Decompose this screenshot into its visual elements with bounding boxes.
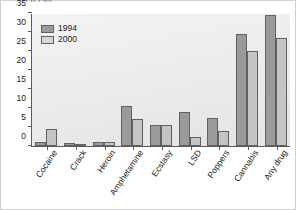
bar-group: [150, 14, 172, 146]
bar-lsd-2000: [190, 137, 201, 147]
x-axis-label-cocaine: Cocaine: [34, 148, 60, 179]
bar-any-drug-1994: [265, 15, 276, 146]
x-axis-label-cannabis: Cannabis: [232, 148, 260, 183]
bar-poppers-2000: [218, 131, 229, 146]
bar-group: [179, 14, 201, 146]
x-axis-label-heroin: Heroin: [95, 148, 117, 174]
y-axis-tick-label: 30: [17, 17, 26, 27]
clipped-title-text: a g (%): [23, 0, 52, 2]
bar-ecstasy-2000: [161, 125, 172, 146]
y-axis-tick-label: 20: [17, 55, 26, 65]
bar-group: [236, 14, 258, 146]
bar-cocaine-1994: [35, 142, 46, 146]
bar-cocaine-2000: [46, 129, 57, 146]
y-axis-tick-label: 15: [17, 74, 26, 84]
bar-crack-1994: [64, 143, 75, 146]
bar-group: [265, 14, 287, 146]
bar-amphetamine-1994: [121, 106, 132, 146]
bar-amphetamine-2000: [132, 119, 143, 146]
y-axis-tick-label: 35: [17, 0, 26, 8]
legend-swatch-1994: [41, 25, 54, 33]
legend-label-2000: 2000: [58, 35, 77, 44]
legend-entry-1994: 1994: [41, 23, 77, 34]
y-axis-tick-label: 10: [17, 93, 26, 103]
bar-lsd-1994: [179, 112, 190, 146]
legend-label-1994: 1994: [58, 24, 77, 33]
legend-swatch-2000: [41, 36, 54, 44]
bar-cannabis-2000: [247, 51, 258, 146]
y-axis-tick: [28, 12, 32, 13]
bar-group: [207, 14, 229, 146]
y-axis-tick-label: 5: [21, 112, 26, 122]
x-axis-label-poppers: Poppers: [206, 148, 232, 180]
bar-heroin-1994: [93, 142, 104, 146]
bar-any-drug-2000: [276, 38, 287, 146]
x-axis-label-crack: Crack: [68, 148, 89, 172]
y-axis-tick-label: 0: [21, 131, 26, 141]
legend-entry-2000: 2000: [41, 34, 77, 45]
bar-cannabis-1994: [236, 34, 247, 146]
bar-ecstasy-1994: [150, 125, 161, 146]
bar-poppers-1994: [207, 118, 218, 147]
chart-legend: 19942000: [38, 21, 81, 47]
bar-chart-figure: a g (%) 05101520253035 CocaineCrackHeroi…: [0, 0, 296, 210]
x-axis-label-any-drug: Any drug: [262, 148, 289, 182]
y-axis-tick-label: 25: [17, 36, 26, 46]
x-axis-labels: CocaineCrackHeroinAmphetamineEcstasyLSDP…: [31, 148, 289, 208]
bar-group: [121, 14, 143, 146]
x-axis-label-lsd: LSD: [185, 148, 203, 167]
bar-group: [93, 14, 115, 146]
x-axis-label-ecstasy: Ecstasy: [149, 148, 174, 178]
